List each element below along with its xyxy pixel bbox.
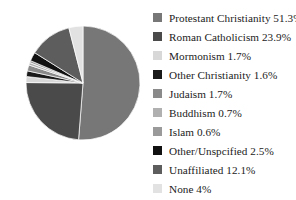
legend-swatch-islam (153, 127, 162, 136)
legend-label-other-unspcified: Other/Unspcified 2.5% (169, 145, 274, 157)
legend-label-islam: Islam 0.6% (169, 126, 220, 138)
chart-legend: Protestant Christianity 51.3% Roman Cath… (153, 8, 296, 198)
pie-chart-figure: Protestant Christianity 51.3% Roman Cath… (0, 0, 296, 200)
legend-label-unaffiliated: Unaffiliated 12.1% (169, 164, 255, 176)
legend-item: Buddhism 0.7% (153, 103, 296, 122)
legend-swatch-buddhism (153, 108, 162, 117)
legend-swatch-mormonism (153, 51, 162, 60)
legend-label-protestant-christianity: Protestant Christianity 51.3% (169, 12, 296, 24)
pie-slice (26, 83, 83, 140)
legend-swatch-other-unspcified (153, 146, 162, 155)
pie-slice-group (26, 26, 140, 140)
pie-slice (79, 26, 140, 140)
legend-label-mormonism: Mormonism 1.7% (169, 50, 251, 62)
legend-swatch-roman-catholicism (153, 32, 162, 41)
legend-item: Other Christianity 1.6% (153, 65, 296, 84)
legend-swatch-unaffiliated (153, 165, 162, 174)
legend-item: Mormonism 1.7% (153, 46, 296, 65)
legend-swatch-judaism (153, 89, 162, 98)
legend-item: Protestant Christianity 51.3% (153, 8, 296, 27)
legend-item: Judaism 1.7% (153, 84, 296, 103)
pie-svg (0, 0, 148, 200)
pie-plot-area (0, 0, 148, 200)
legend-swatch-none (153, 184, 162, 193)
legend-item: Islam 0.6% (153, 122, 296, 141)
legend-swatch-protestant-christianity (153, 13, 162, 22)
legend-label-none: None 4% (169, 183, 211, 195)
legend-label-other-christianity: Other Christianity 1.6% (169, 69, 277, 81)
legend-item: None 4% (153, 179, 296, 198)
legend-label-judaism: Judaism 1.7% (169, 88, 232, 100)
legend-item: Roman Catholicism 23.9% (153, 27, 296, 46)
legend-label-roman-catholicism: Roman Catholicism 23.9% (169, 31, 291, 43)
legend-label-buddhism: Buddhism 0.7% (169, 107, 242, 119)
legend-item: Other/Unspcified 2.5% (153, 141, 296, 160)
legend-swatch-other-christianity (153, 70, 162, 79)
legend-item: Unaffiliated 12.1% (153, 160, 296, 179)
